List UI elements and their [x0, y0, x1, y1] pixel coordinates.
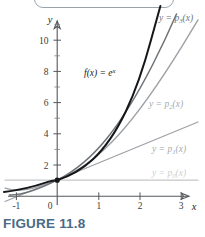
label-p3: y = p3(x) — [158, 13, 193, 24]
label-p3-arg: (x) — [183, 13, 194, 24]
plot-area: -1 0 1 2 3 2 4 6 8 10 y x f(x) = ex y = … — [0, 0, 205, 215]
y-tick-label-2: 2 — [44, 161, 49, 171]
label-p3-lhs: y = p — [158, 13, 179, 23]
y-tick-label-10: 10 — [39, 36, 49, 46]
tangency-point-dot — [55, 178, 60, 183]
label-p1: y = p1(x) — [151, 144, 186, 155]
label-p0: y = p0(x) — [151, 168, 186, 179]
x-tick-label-0: 0 — [48, 201, 53, 211]
x-tick-label-2: 2 — [138, 201, 143, 211]
y-tick-label-4: 4 — [44, 129, 49, 139]
y-axis-label: y — [47, 14, 53, 25]
x-tick-label-1: 1 — [96, 201, 101, 211]
label-p2: y = p2(x) — [148, 99, 183, 110]
x-tick-label--1: -1 — [12, 201, 20, 211]
label-f-arg: (x) = e — [87, 68, 113, 79]
figure-container: -1 0 1 2 3 2 4 6 8 10 y x f(x) = ex y = … — [0, 0, 205, 237]
label-p0-lhs: y = p — [151, 168, 172, 178]
figure-caption: FIGURE 11.8 — [3, 216, 85, 231]
label-p2-arg: (x) — [173, 99, 184, 110]
label-p0-arg: (x) — [176, 168, 187, 179]
x-axis-label: x — [191, 201, 197, 212]
x-tick-label-3: 3 — [179, 201, 184, 211]
label-p2-lhs: y = p — [148, 99, 169, 109]
y-tick-label-6: 6 — [44, 98, 49, 108]
graph-svg: -1 0 1 2 3 2 4 6 8 10 y x f(x) = ex y = … — [0, 0, 205, 215]
y-tick-label-8: 8 — [44, 67, 49, 77]
label-f-exponent: x — [112, 67, 116, 74]
label-f-of-x: f(x) = ex — [84, 67, 116, 79]
label-p1-arg: (x) — [176, 144, 187, 155]
label-p1-lhs: y = p — [151, 144, 172, 154]
